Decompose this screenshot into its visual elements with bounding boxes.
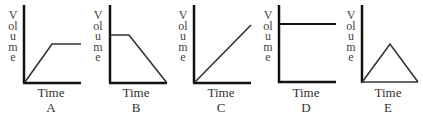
volume-curve [195, 25, 251, 82]
volume-curve [25, 44, 81, 82]
y-axis-label: Volume [262, 10, 274, 63]
y-axis-label: Volume [92, 10, 104, 63]
volume-curve [363, 44, 418, 82]
graph-c: Volume Time C [170, 0, 255, 115]
graph-b: Volume Time B [85, 0, 170, 115]
y-axis-label: Volume [345, 10, 357, 63]
graph-e: Volume Time E [338, 0, 423, 115]
x-axis-label: Time [276, 85, 336, 101]
graph-letter: D [276, 100, 336, 115]
x-axis-label: Time [21, 85, 81, 101]
y-axis-label: Volume [177, 10, 189, 63]
x-axis-label: Time [106, 85, 166, 101]
x-axis-label: Time [191, 85, 251, 101]
graph-letter: A [21, 100, 81, 115]
graph-letter: B [106, 100, 166, 115]
y-axis-label: Volume [7, 10, 19, 63]
graph-letter: E [358, 100, 418, 115]
graph-letter: C [191, 100, 251, 115]
graph-a: Volume Time A [0, 0, 85, 115]
graph-d: Volume Time D [255, 0, 340, 115]
x-axis-label: Time [358, 85, 418, 101]
volume-curve [111, 35, 167, 83]
